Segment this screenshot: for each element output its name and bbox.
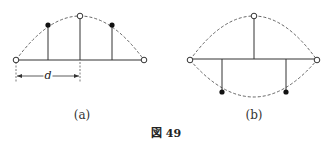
dashed-arc-lower-b <box>190 60 317 97</box>
filled-node-right-a <box>109 22 114 27</box>
open-node-right-b <box>314 57 320 63</box>
filled-node-right-b <box>283 89 288 94</box>
open-node-right-a <box>141 57 147 63</box>
open-node-top-b <box>251 13 257 19</box>
arrow-left-icon <box>17 74 22 78</box>
open-node-top-a <box>77 13 83 19</box>
panel-a <box>13 13 147 82</box>
dimension-label-d: d <box>43 70 52 81</box>
figure-caption: 図 49 <box>151 124 181 140</box>
panel-label-b: (b) <box>245 108 262 122</box>
open-node-left-a <box>13 57 19 63</box>
panel-b <box>187 13 320 97</box>
arrow-right-icon <box>74 74 79 78</box>
panel-label-a: (a) <box>74 108 91 122</box>
filled-node-left-a <box>45 22 50 27</box>
open-node-left-b <box>187 57 193 63</box>
filled-node-left-b <box>219 89 224 94</box>
